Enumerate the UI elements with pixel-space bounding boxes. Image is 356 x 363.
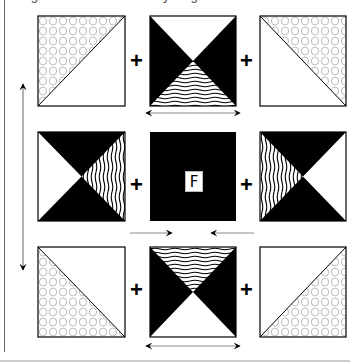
block-r3c1: [38, 247, 125, 337]
plus-r2-b: +: [240, 174, 253, 196]
block-r2c1: [38, 132, 125, 221]
plus-r3-b: +: [240, 279, 253, 301]
plus-r3-a: +: [130, 279, 143, 301]
block-r3c2: [150, 247, 236, 337]
block-r3c3: [260, 247, 346, 337]
caption: Figure 3 - Block assembly diagram: [20, 0, 220, 3]
block-r1c3: [260, 16, 346, 106]
center-f-label: F: [185, 171, 203, 192]
plus-r1-a: +: [130, 50, 143, 72]
plus-r1-b: +: [240, 50, 253, 72]
block-r1c2: [150, 16, 236, 106]
quilt-assembly-diagram: [0, 0, 356, 363]
block-r1c1: [38, 16, 125, 106]
block-r2c3: [260, 132, 346, 221]
plus-r2-a: +: [130, 174, 143, 196]
